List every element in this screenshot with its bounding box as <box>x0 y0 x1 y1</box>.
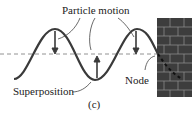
superposition-label: Superposition <box>13 86 74 97</box>
particle-motion-label: Particle motion <box>62 5 130 16</box>
panel-label: (c) <box>88 99 100 110</box>
node-label: Node <box>125 75 149 86</box>
brick-wall <box>157 18 192 97</box>
